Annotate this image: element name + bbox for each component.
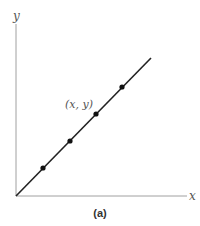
data-point-2	[67, 138, 72, 143]
data-point-4	[119, 84, 124, 89]
data-line	[16, 58, 151, 196]
y-axis-label: y	[12, 9, 20, 23]
x-axis-label: x	[189, 189, 196, 203]
figure-caption: (a)	[93, 207, 107, 219]
point-label: (x, y)	[65, 98, 93, 111]
data-point-3	[93, 111, 98, 116]
data-point-1	[40, 165, 45, 170]
linear-plot-figure: y x (x, y) (a)	[0, 0, 200, 226]
